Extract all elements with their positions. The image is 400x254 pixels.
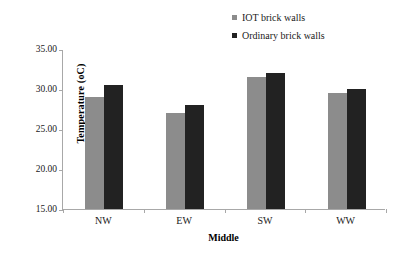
bars-container bbox=[63, 50, 385, 209]
bar bbox=[266, 73, 285, 209]
y-axis-tick-label: 20.00 bbox=[9, 165, 63, 175]
bar-group bbox=[247, 50, 285, 209]
x-axis-tick-mark bbox=[63, 209, 64, 213]
legend-item: IOT brick walls bbox=[232, 10, 392, 25]
x-axis-tick-label: NW bbox=[73, 215, 133, 226]
y-axis-tick-label: 35.00 bbox=[9, 45, 63, 55]
x-axis-tick-mark bbox=[144, 209, 145, 213]
bar bbox=[104, 85, 123, 209]
bar bbox=[347, 89, 366, 209]
y-axis-tick-label: 25.00 bbox=[9, 125, 63, 135]
y-axis-tick-label: 15.00 bbox=[9, 205, 63, 215]
bar bbox=[247, 77, 266, 209]
chart-legend: IOT brick wallsOrdinary brick walls bbox=[232, 10, 392, 46]
legend-label: IOT brick walls bbox=[242, 12, 305, 23]
legend-swatch-icon bbox=[232, 33, 237, 38]
x-axis-tick-mark bbox=[386, 209, 387, 213]
bar bbox=[85, 97, 104, 209]
legend-label: Ordinary brick walls bbox=[242, 30, 325, 41]
x-axis-tick-label: EW bbox=[154, 215, 214, 226]
legend-item: Ordinary brick walls bbox=[232, 28, 392, 43]
x-axis-tick-mark bbox=[305, 209, 306, 213]
y-axis-tick-label: 30.00 bbox=[9, 85, 63, 95]
plot-area: Temperature (oC) 35.0030.0025.0020.0015.… bbox=[62, 50, 385, 210]
bar-chart-figure: IOT brick wallsOrdinary brick walls Temp… bbox=[0, 0, 400, 254]
bar bbox=[185, 105, 204, 209]
bar-group bbox=[328, 50, 366, 209]
bar-group bbox=[166, 50, 204, 209]
x-axis-tick-mark bbox=[225, 209, 226, 213]
x-axis-tick-label: WW bbox=[316, 215, 376, 226]
bar bbox=[166, 113, 185, 209]
x-axis-tick-label: SW bbox=[235, 215, 295, 226]
bar bbox=[328, 93, 347, 209]
legend-swatch-icon bbox=[232, 15, 237, 20]
bar-group bbox=[85, 50, 123, 209]
x-axis-title: Middle bbox=[62, 232, 385, 243]
